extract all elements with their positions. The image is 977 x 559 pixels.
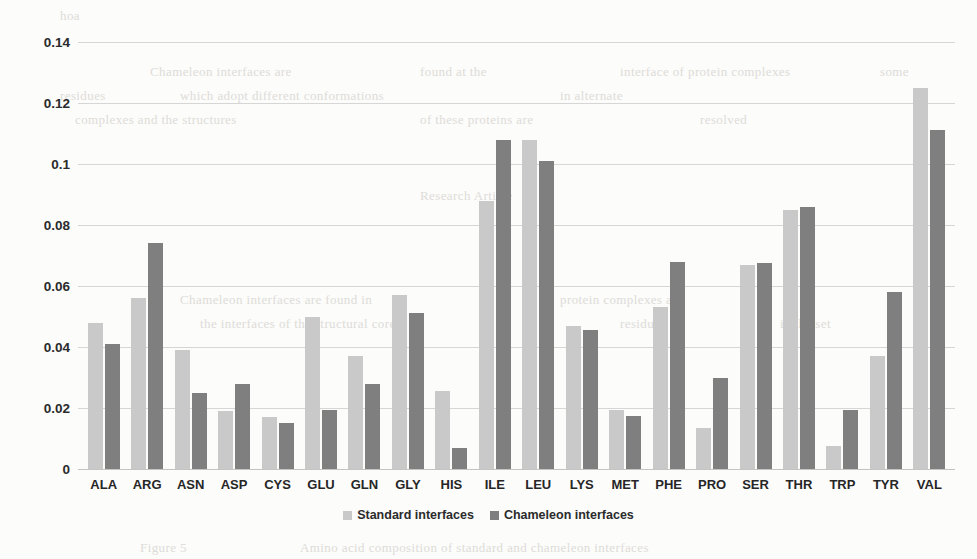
bar-asn-series1 bbox=[175, 350, 190, 469]
bar-phe-series1 bbox=[653, 307, 668, 469]
bar-glu-series2 bbox=[322, 410, 337, 469]
bar-val-series1 bbox=[913, 88, 928, 469]
bar-trp-series1 bbox=[826, 446, 841, 469]
bar-arg-series1 bbox=[131, 298, 146, 469]
bar-group bbox=[908, 42, 951, 469]
bar-glu-series1 bbox=[305, 317, 320, 470]
bar-group bbox=[256, 42, 299, 469]
y-axis: 00.020.040.060.080.10.120.14 bbox=[0, 42, 70, 469]
bar-gln-series1 bbox=[348, 356, 363, 469]
plot-area bbox=[78, 42, 955, 469]
legend-swatch-icon bbox=[343, 511, 352, 520]
x-axis-tick-label: ARG bbox=[125, 472, 168, 498]
legend-label: Standard interfaces bbox=[357, 508, 474, 522]
bar-ala-series1 bbox=[88, 323, 103, 469]
bar-thr-series1 bbox=[783, 210, 798, 469]
bar-chart: hoaChameleon interfaces arefound at thei… bbox=[0, 0, 977, 559]
bar-group bbox=[212, 42, 255, 469]
bar-val-series2 bbox=[930, 130, 945, 469]
bar-asn-series2 bbox=[192, 393, 207, 469]
y-axis-tick-label: 0.08 bbox=[10, 218, 70, 233]
bar-ile-series1 bbox=[479, 201, 494, 469]
x-axis-tick-label: SER bbox=[734, 472, 777, 498]
bar-group bbox=[517, 42, 560, 469]
x-axis-tick-label: PRO bbox=[690, 472, 733, 498]
bar-group bbox=[386, 42, 429, 469]
bar-asp-series1 bbox=[218, 411, 233, 469]
bar-group bbox=[343, 42, 386, 469]
bar-lys-series1 bbox=[566, 326, 581, 469]
background-text-artifact: Figure 5 bbox=[140, 540, 187, 556]
bar-group bbox=[82, 42, 125, 469]
y-axis-tick-label: 0.14 bbox=[10, 35, 70, 50]
x-axis-tick-label: GLU bbox=[299, 472, 342, 498]
bars-layer bbox=[78, 42, 955, 469]
x-axis-tick-label: ASP bbox=[212, 472, 255, 498]
bar-group bbox=[777, 42, 820, 469]
x-axis-tick-label: THR bbox=[777, 472, 820, 498]
bar-group bbox=[864, 42, 907, 469]
y-axis-tick-label: 0.12 bbox=[10, 96, 70, 111]
y-axis-tick-label: 0.1 bbox=[10, 157, 70, 172]
bar-gly-series2 bbox=[409, 313, 424, 469]
legend-item[interactable]: Chameleon interfaces bbox=[490, 508, 634, 522]
bar-tyr-series1 bbox=[870, 356, 885, 469]
x-axis-tick-label: TRP bbox=[821, 472, 864, 498]
bar-phe-series2 bbox=[670, 262, 685, 469]
bar-arg-series2 bbox=[148, 243, 163, 469]
bar-group bbox=[299, 42, 342, 469]
bar-his-series2 bbox=[452, 448, 467, 469]
bar-tyr-series2 bbox=[887, 292, 902, 469]
x-axis-tick-label: CYS bbox=[256, 472, 299, 498]
bar-ser-series1 bbox=[740, 265, 755, 469]
y-axis-tick-label: 0.04 bbox=[10, 340, 70, 355]
legend-label: Chameleon interfaces bbox=[504, 508, 634, 522]
x-axis-tick-label: TYR bbox=[864, 472, 907, 498]
x-axis-tick-label: MET bbox=[603, 472, 646, 498]
bar-group bbox=[430, 42, 473, 469]
x-axis-tick-label: GLY bbox=[386, 472, 429, 498]
x-axis-tick-label: ALA bbox=[82, 472, 125, 498]
x-axis-tick-label: ILE bbox=[473, 472, 516, 498]
bar-group bbox=[647, 42, 690, 469]
x-axis-tick-label: HIS bbox=[430, 472, 473, 498]
bar-cys-series1 bbox=[262, 417, 277, 469]
y-axis-tick-label: 0 bbox=[10, 462, 70, 477]
bar-group bbox=[560, 42, 603, 469]
background-text-artifact: hoa bbox=[60, 8, 80, 24]
bar-gly-series1 bbox=[392, 295, 407, 469]
x-axis-tick-label: PHE bbox=[647, 472, 690, 498]
bar-group bbox=[603, 42, 646, 469]
y-axis-tick-label: 0.02 bbox=[10, 401, 70, 416]
bar-met-series2 bbox=[626, 416, 641, 469]
bar-his-series1 bbox=[435, 391, 450, 469]
x-axis-tick-label: LYS bbox=[560, 472, 603, 498]
bar-group bbox=[125, 42, 168, 469]
bar-leu-series2 bbox=[539, 161, 554, 469]
gridline bbox=[78, 469, 955, 470]
background-text-artifact: Amino acid composition of standard and c… bbox=[300, 540, 649, 556]
bar-leu-series1 bbox=[522, 140, 537, 469]
bar-lys-series2 bbox=[583, 330, 598, 469]
bar-gln-series2 bbox=[365, 384, 380, 469]
bar-ser-series2 bbox=[757, 263, 772, 469]
x-axis-tick-label: ASN bbox=[169, 472, 212, 498]
bar-trp-series2 bbox=[843, 410, 858, 469]
bar-met-series1 bbox=[609, 410, 624, 469]
bar-group bbox=[169, 42, 212, 469]
bar-asp-series2 bbox=[235, 384, 250, 469]
bar-group bbox=[734, 42, 777, 469]
bar-cys-series2 bbox=[279, 423, 294, 469]
y-axis-tick-label: 0.06 bbox=[10, 279, 70, 294]
bar-ala-series2 bbox=[105, 344, 120, 469]
bar-group bbox=[473, 42, 516, 469]
x-axis: ALAARGASNASPCYSGLUGLNGLYHISILELEULYSMETP… bbox=[78, 472, 955, 498]
legend-item[interactable]: Standard interfaces bbox=[343, 508, 474, 522]
x-axis-tick-label: VAL bbox=[908, 472, 951, 498]
bar-thr-series2 bbox=[800, 207, 815, 469]
bar-group bbox=[821, 42, 864, 469]
bar-pro-series1 bbox=[696, 428, 711, 469]
bar-group bbox=[690, 42, 733, 469]
bar-pro-series2 bbox=[713, 378, 728, 470]
x-axis-tick-label: LEU bbox=[517, 472, 560, 498]
